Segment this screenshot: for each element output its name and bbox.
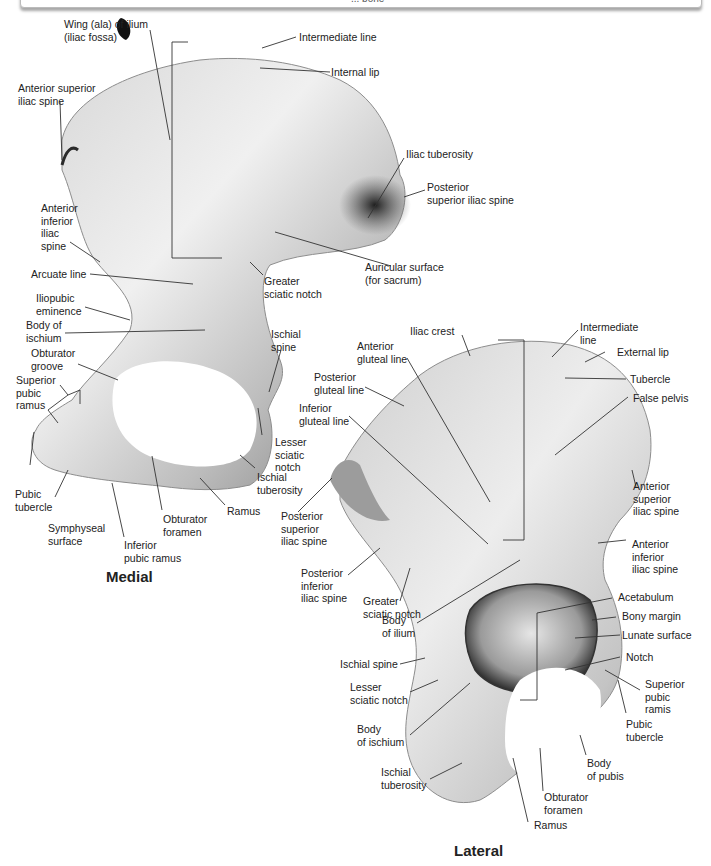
label-iliopubic-eminence: Iliopubic eminence <box>36 292 82 317</box>
label-wing-of-ilium: Wing (ala) of ilium (iliac fossa) <box>64 18 148 43</box>
label-symphyseal-surface: Symphyseal surface <box>48 522 105 547</box>
label-body-of-ilium: Body of ilium <box>382 614 415 639</box>
label-bony-margin: Bony margin <box>622 610 681 623</box>
label-ischial-tuberosity-lateral: Ischial tuberosity <box>381 766 427 791</box>
label-anterior-gluteal-line: Anterior gluteal line <box>357 340 407 365</box>
label-arcuate-line: Arcuate line <box>31 268 86 281</box>
label-body-of-ischium: Body of ischium <box>26 319 62 344</box>
label-intermediate-line-lateral: Intermediate line <box>580 321 638 346</box>
label-anterior-inferior-iliac-spine: Anterior inferior iliac spine <box>41 202 78 252</box>
label-intermediate-line: Intermediate line <box>299 31 377 44</box>
label-posterior-inferior-iliac-spine: Posterior inferior iliac spine <box>301 567 347 605</box>
label-iliac-tuberosity: Iliac tuberosity <box>406 148 473 161</box>
label-superior-pubic-ramus: Superior pubic ramus <box>16 374 56 412</box>
label-body-of-ischium-lateral: Body of ischium <box>357 723 404 748</box>
label-notch: Notch <box>626 651 653 664</box>
label-obturator-groove: Obturator groove <box>31 347 75 372</box>
label-ischial-spine-lateral: Ischial spine <box>340 658 398 671</box>
label-anterior-inferior-iliac-spine-lateral: Anterior inferior iliac spine <box>632 538 678 576</box>
label-anterior-superior-iliac-spine-lateral: Anterior superior iliac spine <box>633 480 679 518</box>
view-title-lateral: Lateral <box>454 842 503 859</box>
label-obturator-foramen-lateral: Obturator foramen <box>544 791 588 816</box>
label-tubercle: Tubercle <box>630 373 670 386</box>
label-greater-sciatic-notch: Greater sciatic notch <box>264 275 322 300</box>
label-anterior-superior-iliac-spine: Anterior superior iliac spine <box>18 82 96 107</box>
label-acetabulum: Acetabulum <box>618 591 673 604</box>
label-body-of-pubis: Body of pubis <box>587 757 624 782</box>
label-ramus-lateral: Ramus <box>534 819 567 832</box>
label-obturator-foramen: Obturator foramen <box>163 513 207 538</box>
view-title-medial: Medial <box>106 568 153 585</box>
label-ischial-spine: Ischial spine <box>271 328 301 353</box>
label-superior-pubic-ramis: Superior pubic ramis <box>645 678 685 716</box>
label-lesser-sciatic-notch: Lesser sciatic notch <box>275 436 307 474</box>
label-inferior-gluteal-line: Inferior gluteal line <box>299 402 349 427</box>
label-false-pelvis: False pelvis <box>633 392 688 405</box>
label-lunate-surface: Lunate surface <box>622 629 691 642</box>
label-posterior-superior-iliac-spine: Posterior superior iliac spine <box>427 181 514 206</box>
label-posterior-gluteal-line: Posterior gluteal line <box>314 371 364 396</box>
label-pubic-tubercle-lateral: Pubic tubercle <box>626 718 663 743</box>
label-internal-lip: Internal lip <box>331 66 379 79</box>
label-lesser-sciatic-notch-lateral: Lesser sciatic notch <box>350 681 408 706</box>
label-posterior-superior-iliac-spine-lateral: Posterior superior iliac spine <box>281 510 327 548</box>
label-ramus: Ramus <box>227 505 260 518</box>
label-auricular-surface: Auricular surface (for sacrum) <box>365 261 444 286</box>
medial-hip-bone <box>32 58 411 489</box>
label-pubic-tubercle: Pubic tubercle <box>15 488 52 513</box>
label-iliac-crest: Iliac crest <box>410 325 454 338</box>
label-inferior-pubic-ramus: Inferior pubic ramus <box>124 539 181 564</box>
label-ischial-tuberosity: Ischial tuberosity <box>257 471 303 496</box>
illustration <box>0 0 711 866</box>
label-external-lip: External lip <box>617 346 669 359</box>
